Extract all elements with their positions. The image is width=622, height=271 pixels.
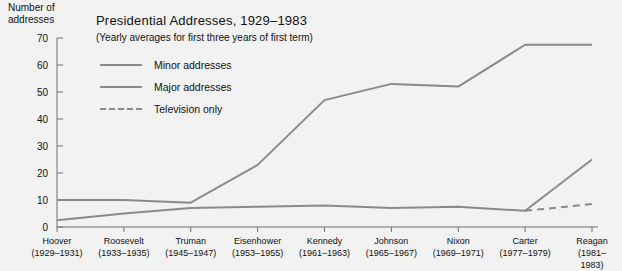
x-axis-category-years: (1977–1979) xyxy=(500,247,551,259)
x-axis-category-years: (1969–1971) xyxy=(433,247,484,259)
y-axis-tick-label: 30 xyxy=(26,141,48,152)
x-axis-category-name: Carter xyxy=(500,235,551,247)
y-axis-tick-label: 50 xyxy=(26,87,48,98)
x-axis-category-name: Kennedy xyxy=(299,235,350,247)
x-axis-tick-label: Truman(1945–1947) xyxy=(165,235,216,259)
x-axis-category-name: Nixon xyxy=(433,235,484,247)
series-line-minor-addresses xyxy=(57,45,592,203)
x-axis-category-years: (1945–1947) xyxy=(165,247,216,259)
x-axis-category-name: Johnson xyxy=(366,235,417,247)
y-axis-tick-label: 60 xyxy=(26,60,48,71)
x-axis-tick-label: Reagan(1981–1983) xyxy=(576,235,608,271)
series-line-television-only xyxy=(525,204,592,211)
x-axis-tick-label: Nixon(1969–1971) xyxy=(433,235,484,259)
x-axis-category-name: Reagan xyxy=(576,235,608,247)
x-axis-category-name: Truman xyxy=(165,235,216,247)
x-axis-tick-label: Roosevelt(1933–1935) xyxy=(98,235,149,259)
y-axis-tick-label: 40 xyxy=(26,114,48,125)
series-line-major-addresses xyxy=(57,160,592,221)
y-axis-tick-label: 20 xyxy=(26,168,48,179)
x-axis-tick-label: Carter(1977–1979) xyxy=(500,235,551,259)
x-axis-category-name: Hoover xyxy=(31,235,82,247)
x-axis-category-years: (1929–1931) xyxy=(31,247,82,259)
x-axis-category-name: Eisenhower xyxy=(232,235,283,247)
x-axis-category-name: Roosevelt xyxy=(98,235,149,247)
x-axis-category-years: (1953–1955) xyxy=(232,247,283,259)
x-axis-tick-label: Hoover(1929–1931) xyxy=(31,235,82,259)
x-axis-tick-label: Eisenhower(1953–1955) xyxy=(232,235,283,259)
x-axis-category-years: (1933–1935) xyxy=(98,247,149,259)
x-axis-category-years: (1961–1963) xyxy=(299,247,350,259)
y-axis-tick-label: 0 xyxy=(26,222,48,233)
x-axis-category-years: (1981–1983) xyxy=(576,247,608,271)
x-axis-category-years: (1965–1967) xyxy=(366,247,417,259)
y-axis-tick-label: 70 xyxy=(26,33,48,44)
y-axis-tick-label: 10 xyxy=(26,195,48,206)
x-axis-tick-label: Kennedy(1961–1963) xyxy=(299,235,350,259)
x-axis-tick-label: Johnson(1965–1967) xyxy=(366,235,417,259)
